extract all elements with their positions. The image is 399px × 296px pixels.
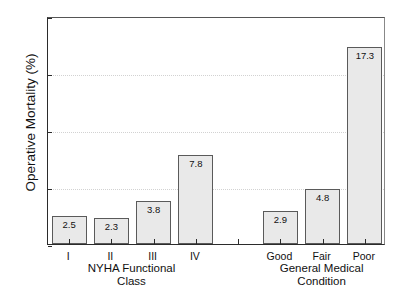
y-tick-mark-0 xyxy=(48,246,52,247)
group-title-medical-line2: Condition xyxy=(280,275,364,288)
bar-poor: 17.3 xyxy=(347,47,382,244)
bar-value-fair: 4.8 xyxy=(306,192,339,203)
x-tick-mark-i xyxy=(69,239,70,244)
x-tick-mark-gap xyxy=(238,239,239,244)
x-tick-mark-poor xyxy=(365,239,366,244)
x-tick-label-iii: III xyxy=(148,250,157,262)
chart-figure: Operative Mortality (%) 05101520 2.52.33… xyxy=(0,0,399,296)
y-tick-mark-5 xyxy=(48,189,52,190)
y-axis-title: Operative Mortality (%) xyxy=(23,8,38,238)
x-tick-label-i: I xyxy=(67,250,70,262)
group-title-nyha: NYHA Functional Class xyxy=(88,262,176,287)
plot-area: 2.52.33.87.82.94.817.3 xyxy=(47,17,385,245)
y-tick-mark-10 xyxy=(48,132,52,133)
gridline-10 xyxy=(48,132,384,133)
group-title-nyha-line2: Class xyxy=(88,275,176,288)
bar-iii: 3.8 xyxy=(136,201,171,244)
bar-value-good: 2.9 xyxy=(264,214,297,225)
bar-value-i: 2.5 xyxy=(53,219,86,230)
x-tick-label-good: Good xyxy=(267,250,293,262)
x-tick-label-iv: IV xyxy=(190,250,200,262)
x-tick-label-poor: Poor xyxy=(353,250,375,262)
bar-value-poor: 17.3 xyxy=(348,50,381,61)
y-tick-mark-15 xyxy=(48,75,52,76)
x-tick-mark-iii xyxy=(154,239,155,244)
group-title-medical-line1: General Medical xyxy=(280,262,364,275)
bar-value-iii: 3.8 xyxy=(137,204,170,215)
bar-value-iv: 7.8 xyxy=(179,158,212,169)
bar-fair: 4.8 xyxy=(305,189,340,244)
gridline-15 xyxy=(48,75,384,76)
group-title-medical: General Medical Condition xyxy=(280,262,364,287)
x-tick-mark-good xyxy=(280,239,281,244)
x-tick-mark-fair xyxy=(323,239,324,244)
y-tick-mark-20 xyxy=(48,18,52,19)
x-tick-mark-ii xyxy=(111,239,112,244)
x-tick-mark-iv xyxy=(196,239,197,244)
bar-value-ii: 2.3 xyxy=(95,221,128,232)
group-title-nyha-line1: NYHA Functional xyxy=(88,262,176,275)
x-tick-label-fair: Fair xyxy=(313,250,331,262)
x-tick-label-ii: II xyxy=(107,250,113,262)
bar-iv: 7.8 xyxy=(178,155,213,244)
